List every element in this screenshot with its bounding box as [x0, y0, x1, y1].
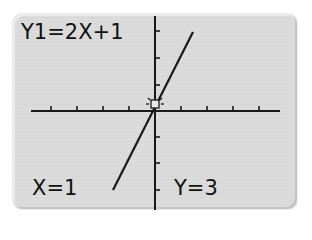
equation-label: Y1=2X+1 [21, 22, 124, 43]
trace-y-value: Y=3 [174, 178, 218, 199]
trace-cursor-icon [146, 98, 164, 108]
trace-x-value: X=1 [32, 178, 77, 199]
